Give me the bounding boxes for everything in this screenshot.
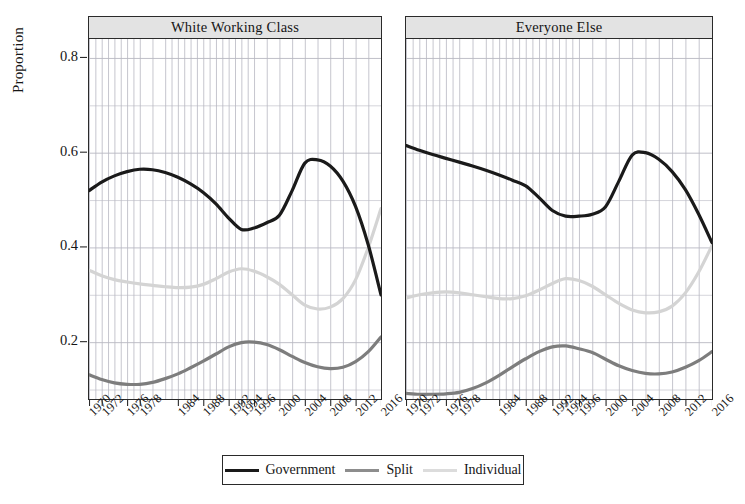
series-line-split [89,337,381,385]
plot-svg-1 [406,39,712,399]
panel-everyone-else: Everyone Else [405,16,713,400]
legend-item-individual[interactable]: Individual [423,462,522,478]
horizontal-gridlines [406,58,712,390]
plot-area-1 [406,39,712,399]
y-tick-label: 0.4 [20,237,78,254]
legend-item-government[interactable]: Government [225,462,336,478]
legend-label: Individual [464,462,522,478]
series-line-individual [406,246,712,313]
chart-legend: GovernmentSplitIndividual [222,455,524,485]
panel-strip-label-0: White Working Class [89,17,381,39]
panel-strip-label-1: Everyone Else [406,17,712,39]
x-axis-tick-labels-0: 1970197219761978198419881992199419962000… [88,400,382,460]
legend-label: Government [266,462,336,478]
plot-area-0 [89,39,381,399]
legend-swatch-government [225,469,259,472]
y-tick-label: 0.8 [20,48,78,65]
y-axis-tick-labels: 0.80.60.40.2 [0,0,78,400]
legend-swatch-individual [423,469,457,472]
legend-swatch-split [345,469,379,472]
legend-item-split[interactable]: Split [345,462,412,478]
plot-svg-0 [89,39,381,399]
series-line-government [406,146,712,243]
chart-figure: Proportion 0.80.60.40.2 White Working Cl… [0,0,745,504]
legend-label: Split [386,462,412,478]
series-line-split [406,346,712,395]
panel-white-working-class: White Working Class [88,16,382,400]
x-tick-label: 2016 [709,391,737,419]
y-tick-label: 0.6 [20,143,78,160]
x-tick-label: 2016 [378,391,406,419]
y-tick-marks [80,0,88,504]
y-tick-label: 0.2 [20,332,78,349]
x-axis-tick-labels-1: 1970197219761978198419881992199419962000… [405,400,713,460]
series-line-government [89,159,381,295]
